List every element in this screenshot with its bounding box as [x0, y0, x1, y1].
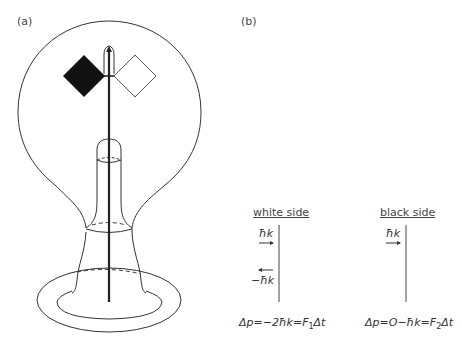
white-eq-suffix: Δt: [314, 316, 326, 329]
black-side-equation: Δp=O−ħk=F2Δt: [365, 316, 453, 331]
white-side-heading: white side: [253, 206, 309, 219]
white-reflected-momentum: −ħk: [251, 274, 274, 287]
black-eq-prefix: Δp=O−ħk=: [365, 316, 430, 329]
radiometer-diagram: [0, 0, 462, 343]
white-side-equation: Δp=−2ħk=F1Δt: [239, 316, 325, 331]
white-vane: [114, 55, 156, 97]
white-incoming-momentum: ħk: [259, 227, 273, 240]
figure: (a) (b) white side black side ħk −ħk ħk …: [0, 0, 462, 343]
black-vane: [63, 55, 105, 97]
panel-a-label: (a): [17, 15, 32, 28]
black-eq-suffix: Δt: [441, 316, 453, 329]
black-incoming-arrow: [386, 241, 401, 245]
white-eq-prefix: Δp=−2ħk=: [239, 316, 302, 329]
black-incoming-momentum: ħk: [386, 227, 400, 240]
panel-b-label: (b): [241, 15, 257, 28]
black-side-heading: black side: [380, 206, 435, 219]
white-reflected-arrow: [258, 268, 273, 272]
white-incoming-arrow: [259, 241, 274, 245]
